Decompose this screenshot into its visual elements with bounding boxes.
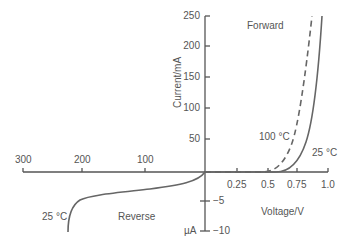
forward-100c-curve bbox=[205, 16, 312, 172]
y-tick: 200 bbox=[178, 41, 200, 51]
y-tick-negative: −5 bbox=[213, 196, 224, 206]
x-tick-reverse: 300 bbox=[15, 155, 32, 165]
y-axis-label: Current/mA bbox=[173, 57, 183, 108]
y-tick-negative: −10 bbox=[213, 226, 230, 236]
y-tick: 250 bbox=[178, 11, 200, 21]
series-label-25c-forward: 25 °C bbox=[312, 148, 337, 158]
x-tick: 0.5 bbox=[261, 180, 275, 190]
y-negative-unit: µA bbox=[184, 226, 196, 236]
series-label-25c-reverse: 25 °C bbox=[42, 212, 67, 222]
x-tick: 0.75 bbox=[287, 180, 306, 190]
x-axis-label: Voltage/V bbox=[261, 207, 304, 217]
reverse-label: Reverse bbox=[118, 212, 155, 222]
series-label-100c: 100 °C bbox=[259, 132, 290, 142]
x-tick: 1.0 bbox=[321, 180, 335, 190]
x-tick-reverse: 100 bbox=[137, 155, 154, 165]
forward-label: Forward bbox=[247, 21, 284, 31]
y-tick: 50 bbox=[178, 134, 200, 144]
reverse-25c-curve bbox=[68, 172, 205, 232]
x-tick: 0.25 bbox=[227, 180, 246, 190]
forward-25c-curve bbox=[205, 16, 322, 172]
x-tick-reverse: 200 bbox=[74, 155, 91, 165]
